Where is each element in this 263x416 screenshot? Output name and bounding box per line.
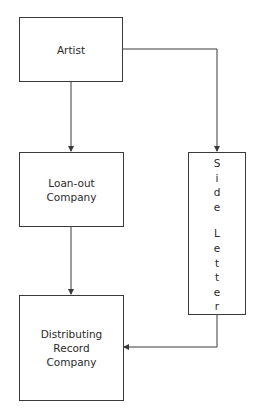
side-letter-char: e (214, 285, 220, 300)
node-side-letter: S i d e L e t t e r (188, 152, 246, 315)
side-letter-char: L (214, 226, 220, 241)
node-loan-out-label: Loan-out Company (47, 176, 97, 204)
node-distributing-record-company: Distributing Record Company (19, 295, 124, 401)
side-letter-char: r (215, 299, 219, 314)
side-letter-char: e (214, 241, 220, 256)
side-letter-char: S (214, 156, 221, 171)
node-distributing-label: Distributing Record Company (41, 327, 103, 369)
arrow-artist-to-sideletter (122, 49, 217, 151)
side-letter-char: e (214, 200, 220, 215)
node-artist-label: Artist (57, 43, 85, 57)
side-letter-char: t (215, 270, 219, 285)
side-letter-char: d (214, 185, 221, 200)
node-loan-out-company: Loan-out Company (19, 152, 124, 227)
node-artist: Artist (19, 17, 123, 82)
arrow-sideletter-to-distributing (124, 314, 217, 347)
side-letter-char: i (216, 171, 219, 186)
side-letter-char: t (215, 256, 219, 271)
